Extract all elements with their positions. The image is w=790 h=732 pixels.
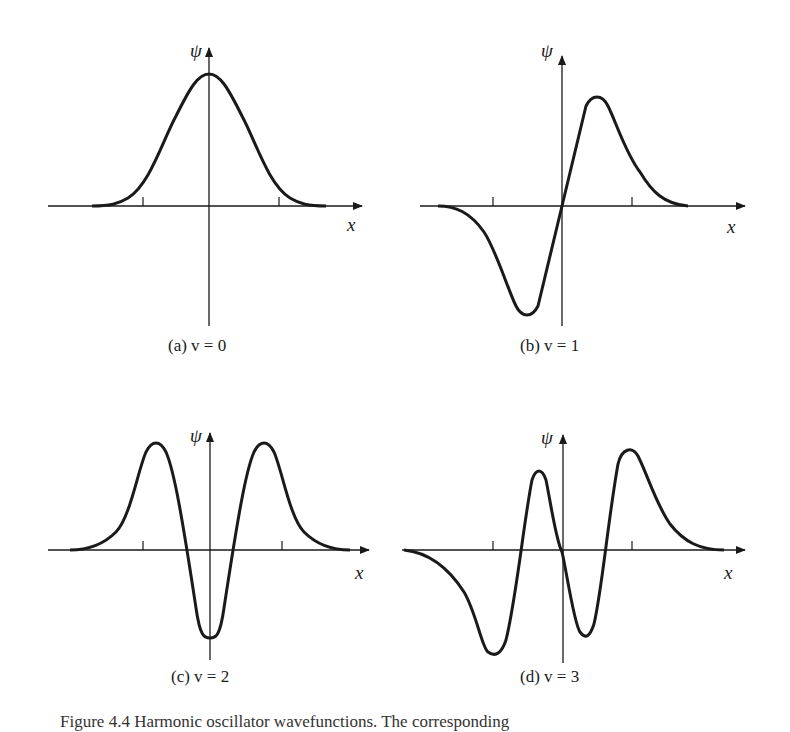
panel-caption-c: (c) v = 2 [171,667,229,687]
panel-c [48,433,369,660]
y-axis-label: ψ [541,427,553,449]
panel-b [420,56,745,326]
y-axis-label: ψ [190,40,202,62]
panel-caption-b: (b) v = 1 [520,336,579,356]
x-axis-label: x [347,214,355,236]
y-axis-label: ψ [541,40,553,62]
panel-d [402,435,745,663]
x-axis-label: x [727,216,735,238]
x-axis-label: x [724,562,732,584]
panel-a [48,48,362,326]
wavefunction-curve [404,450,724,654]
y-axis-label: ψ [190,425,202,447]
panel-caption-d: (d) v = 3 [520,667,579,687]
x-axis-label: x [355,562,363,584]
figure-caption: Figure 4.4 Harmonic oscillator wavefunct… [60,712,509,732]
panel-caption-a: (a) v = 0 [168,336,226,356]
